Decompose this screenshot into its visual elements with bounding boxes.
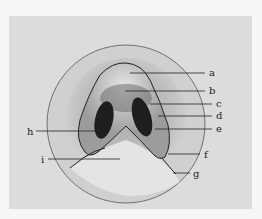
label-b: b <box>209 85 215 96</box>
label-a: a <box>209 67 215 78</box>
nose-diagram: a b c d e f g h i <box>0 0 262 219</box>
label-e: e <box>216 123 222 134</box>
label-h: h <box>27 126 34 137</box>
label-c: c <box>216 98 222 109</box>
label-g: g <box>193 168 200 179</box>
label-d: d <box>216 110 223 121</box>
label-f: f <box>204 149 209 160</box>
label-i: i <box>41 154 44 165</box>
